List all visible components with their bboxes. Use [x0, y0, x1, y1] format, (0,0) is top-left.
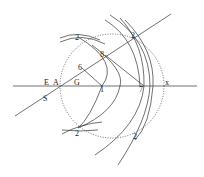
- label-S: S: [43, 94, 47, 103]
- label-2-top-right: 2: [131, 31, 135, 40]
- arc-right-4: [105, 20, 140, 86]
- label-7: 7: [139, 85, 143, 94]
- label-1: 1: [100, 85, 104, 94]
- arc-right-3: [125, 20, 153, 140]
- segment-6-1: [82, 68, 102, 86]
- label-x: x: [165, 78, 169, 87]
- arc-bl-b: [62, 130, 98, 131]
- label-6: 6: [78, 63, 82, 72]
- label-2-bottom-left: 2: [75, 129, 79, 138]
- label-2-bottom-right: 2: [133, 132, 137, 141]
- label-2-top-left: 2: [75, 33, 79, 42]
- label-G: G: [74, 78, 80, 87]
- label-E: E: [44, 78, 49, 87]
- construction-figure: E A G S x 1 6 7 8 2 2 2 2: [0, 0, 204, 177]
- label-8: 8: [100, 50, 104, 59]
- diagram-canvas: E A G S x 1 6 7 8 2 2 2 2: [0, 0, 204, 177]
- label-A: A: [53, 78, 59, 87]
